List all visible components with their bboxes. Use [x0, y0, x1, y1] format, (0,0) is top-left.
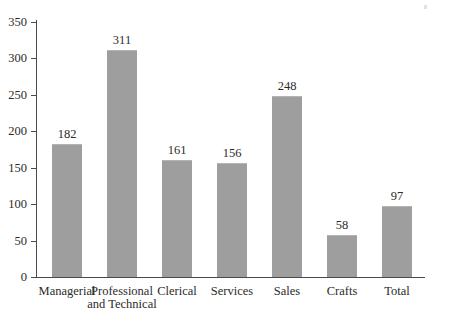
y-tick-mark: [31, 168, 37, 169]
bar: [217, 163, 247, 277]
bar-value-label: 156: [202, 147, 262, 160]
bar: [52, 144, 82, 277]
page-artifact-speck: [424, 5, 427, 9]
bar-value-label: 248: [257, 80, 317, 93]
bar: [382, 206, 412, 277]
bar: [327, 235, 357, 277]
x-axis-line: [36, 277, 425, 278]
bar: [107, 50, 137, 277]
y-tick-mark: [31, 95, 37, 96]
bar: [272, 96, 302, 277]
bar: [162, 160, 192, 277]
y-tick-label: 250: [0, 89, 27, 102]
y-tick-mark: [31, 58, 37, 59]
bar-value-label: 58: [312, 219, 372, 232]
bar-chart: 050100150200250300350 182311161156248589…: [0, 0, 449, 325]
x-category-label-line: Total: [349, 285, 445, 298]
y-tick-label: 100: [0, 198, 27, 211]
y-tick-mark: [31, 277, 37, 278]
bar-value-label: 182: [37, 128, 97, 141]
bar-value-label: 161: [147, 144, 207, 157]
y-tick-label: 150: [0, 162, 27, 175]
x-category-label-line: and Technical: [74, 298, 170, 311]
y-tick-label: 50: [0, 235, 27, 248]
y-tick-label: 350: [0, 16, 27, 29]
y-tick-label: 300: [0, 52, 27, 65]
bar-value-label: 311: [92, 34, 152, 47]
y-tick-label: 0: [0, 271, 27, 284]
y-tick-mark: [31, 241, 37, 242]
y-tick-label: 200: [0, 125, 27, 138]
bar-value-label: 97: [367, 190, 427, 203]
y-tick-mark: [31, 204, 37, 205]
x-category-label: Total: [349, 285, 445, 298]
y-tick-mark: [31, 22, 37, 23]
